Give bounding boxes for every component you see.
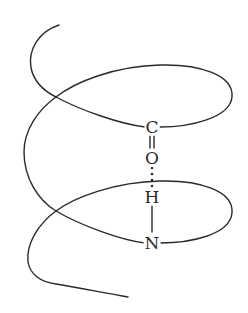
helix-segment-lower-loop (28, 181, 232, 297)
helix-backbone (0, 0, 248, 313)
helix-diagram: C O H N (0, 0, 248, 313)
hydrogen-bond-dots (151, 167, 154, 188)
hydrogen-atom-label: H (144, 189, 161, 206)
helix-segment-upper-loop (24, 65, 232, 243)
oxygen-atom-label: O (144, 150, 160, 167)
nitrogen-atom-label: N (144, 235, 161, 252)
carbon-atom-label: C (144, 119, 159, 136)
helix-segment-top (30, 25, 145, 127)
